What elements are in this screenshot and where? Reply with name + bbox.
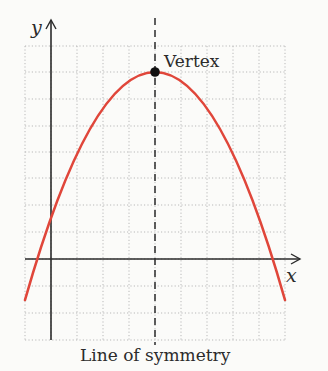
vertex-label: Vertex (163, 51, 220, 71)
line-of-symmetry-label: Line of symmetry (80, 345, 231, 365)
y-axis-label: y (30, 16, 42, 38)
x-axis-label: x (286, 264, 297, 286)
vertex-point (150, 67, 160, 77)
parabola-diagram: y x Vertex Line of symmetry (0, 0, 328, 371)
